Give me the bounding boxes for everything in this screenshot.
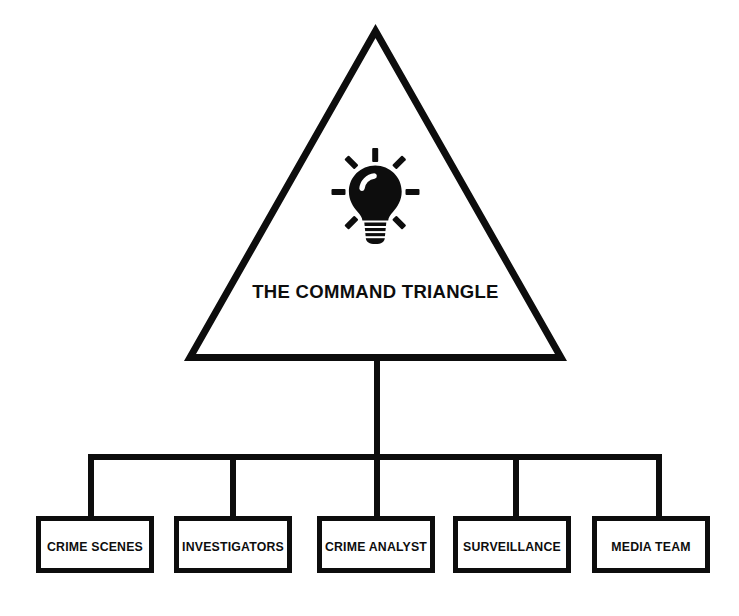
lightbulb-base-band-3 — [364, 236, 386, 238]
diagram-canvas: THE COMMAND TRIANGLE CRIME SCENES INVEST… — [0, 0, 739, 616]
lightbulb-base-band-1 — [364, 226, 387, 228]
child-node-4[interactable]: SURVEILLANCE — [456, 519, 569, 571]
node-label-5: MEDIA TEAM — [611, 540, 690, 554]
child-node-1[interactable]: CRIME SCENES — [39, 519, 152, 571]
child-node-5[interactable]: MEDIA TEAM — [595, 519, 708, 571]
command-triangle-org-chart: THE COMMAND TRIANGLE CRIME SCENES INVEST… — [0, 0, 739, 616]
node-label-4: SURVEILLANCE — [463, 540, 561, 554]
lightbulb-ray-left — [332, 189, 346, 195]
lightbulb-ray-right — [406, 189, 420, 195]
lightbulb-base-band-2 — [364, 231, 387, 233]
node-label-2: INVESTIGATORS — [182, 540, 284, 554]
child-node-2[interactable]: INVESTIGATORS — [177, 519, 290, 571]
node-label-3: CRIME ANALYST — [325, 540, 427, 554]
node-label-1: CRIME SCENES — [47, 540, 143, 554]
lightbulb-ray-top — [372, 148, 378, 162]
root-node-label: THE COMMAND TRIANGLE — [252, 281, 498, 302]
child-node-3[interactable]: CRIME ANALYST — [320, 519, 433, 571]
lightbulb-screw-base — [364, 223, 386, 245]
